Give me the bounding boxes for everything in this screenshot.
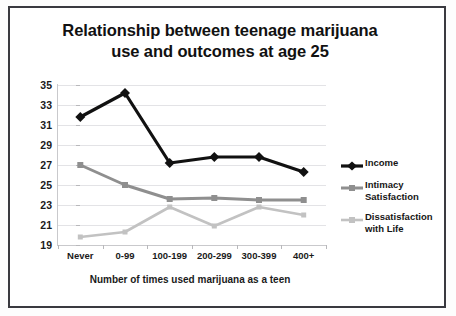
- series-line: [80, 93, 303, 172]
- legend-marker-icon: [340, 180, 364, 192]
- data-point-marker: [299, 167, 309, 177]
- data-point-marker: [212, 224, 217, 229]
- data-point-marker: [256, 197, 262, 203]
- x-axis-tick-mark: [192, 245, 193, 249]
- data-point-marker: [301, 213, 306, 218]
- legend-label: Income: [364, 157, 398, 169]
- data-point-marker: [77, 162, 83, 168]
- series-income: [75, 88, 308, 177]
- x-axis-tick-label: 100-199: [152, 250, 187, 261]
- x-axis-tick-label: 400+: [293, 250, 314, 261]
- data-point-marker: [167, 205, 172, 210]
- legend-item-dissatisfaction-with-life[interactable]: Dissatisfactionwith Life: [340, 211, 444, 234]
- x-axis-title: Number of times used marijuana as a teen: [40, 274, 340, 285]
- x-axis-tick-mark: [237, 245, 238, 249]
- x-axis-tick-mark: [281, 245, 282, 249]
- data-point-marker: [78, 235, 83, 240]
- legend-marker-icon: [340, 158, 364, 170]
- series-line: [80, 207, 303, 237]
- data-point-marker: [209, 152, 219, 162]
- legend-item-income[interactable]: Income: [340, 157, 444, 170]
- legend-label: Dissatisfactionwith Life: [364, 211, 433, 234]
- x-axis-tick-label: 300-399: [242, 250, 277, 261]
- data-point-marker: [123, 230, 128, 235]
- x-axis-tick-mark: [103, 245, 104, 249]
- x-axis-tick-mark: [326, 245, 327, 249]
- data-point-marker: [254, 152, 264, 162]
- x-axis-tick-label: Never: [67, 250, 93, 261]
- series-intimacy-satisfaction: [77, 162, 306, 203]
- legend-item-intimacy-satisfaction[interactable]: IntimacySatisfaction: [340, 179, 444, 202]
- series-dissatisfaction-with-life: [78, 205, 306, 240]
- x-axis-tick-mark: [147, 245, 148, 249]
- x-axis-tick-label: 200-299: [197, 250, 232, 261]
- data-point-marker: [122, 182, 128, 188]
- data-point-marker: [257, 205, 262, 210]
- data-point-marker: [167, 196, 173, 202]
- chart-figure: Relationship between teenage marijuana u…: [0, 0, 456, 316]
- data-point-marker: [301, 197, 307, 203]
- data-point-marker: [211, 195, 217, 201]
- series-line: [80, 165, 303, 200]
- x-axis-tick-mark: [58, 245, 59, 249]
- x-axis-tick-label: 0-99: [115, 250, 134, 261]
- chart-legend: IncomeIntimacySatisfactionDissatisfactio…: [340, 157, 444, 243]
- legend-marker-icon: [340, 212, 364, 224]
- legend-label: IntimacySatisfaction: [364, 179, 419, 202]
